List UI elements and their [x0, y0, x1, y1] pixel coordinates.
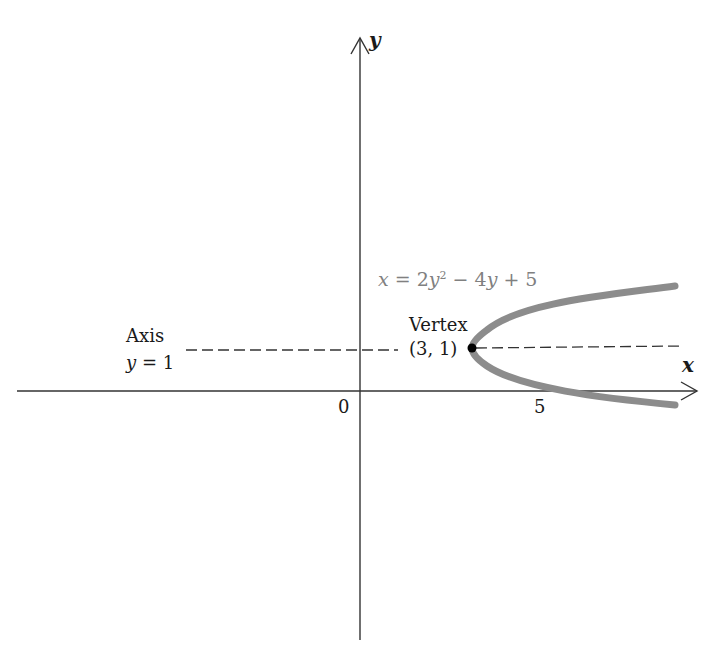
- parabola-diagram: [0, 0, 717, 663]
- x-tick-5-label: 5: [534, 398, 545, 416]
- axis-equation: y = 1: [126, 354, 174, 372]
- y-axis-label: y: [369, 30, 381, 50]
- axis-eq-rest: = 1: [136, 352, 174, 373]
- origin-label: 0: [338, 398, 349, 416]
- parabola-curve: [472, 286, 675, 405]
- parabola-equation-label: x = 2y2 − 4y + 5: [378, 270, 537, 289]
- eq-plus: + 5: [497, 268, 537, 290]
- eq-y2: y: [487, 268, 498, 290]
- vertex-coords: (3, 1): [409, 340, 457, 358]
- eq-y: y: [429, 268, 440, 290]
- axis-title: Axis: [126, 327, 164, 345]
- x-axis-label: x: [682, 355, 694, 375]
- eq-equals: = 2: [389, 268, 429, 290]
- eq-minus: − 4: [447, 268, 487, 290]
- axis-eq-var: y: [126, 352, 136, 373]
- vertex-title: Vertex: [409, 316, 468, 334]
- axis-of-symmetry-line-right: [476, 346, 682, 348]
- vertex-point: [468, 344, 477, 353]
- eq-exponent: 2: [440, 269, 447, 282]
- eq-x: x: [378, 268, 389, 290]
